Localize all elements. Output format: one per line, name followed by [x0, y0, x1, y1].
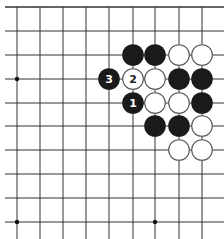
white-stone-icon [192, 45, 213, 66]
grid-lines [5, 7, 224, 239]
white-stone [169, 140, 190, 161]
black-stone [168, 115, 190, 137]
white-stone-icon [145, 93, 166, 114]
white-stone [192, 116, 213, 137]
move-number-label: 2 [129, 73, 137, 86]
black-stone [144, 44, 166, 66]
white-stone-icon [169, 45, 190, 66]
white-stone-icon [192, 140, 213, 161]
white-stone [192, 140, 213, 161]
move-number-label: 3 [105, 73, 113, 86]
white-stone-icon [192, 116, 213, 137]
black-stone-icon [191, 68, 213, 90]
black-stone-move-3: 3 [98, 68, 120, 90]
black-stone-icon [144, 115, 166, 137]
black-stone-icon [168, 115, 190, 137]
white-stone-icon [169, 140, 190, 161]
go-board-diagram: 321 [0, 0, 224, 239]
black-stone [191, 92, 213, 114]
white-stone [169, 45, 190, 66]
white-stone [169, 93, 190, 114]
black-stone-icon [144, 44, 166, 66]
star-point-icon [153, 220, 157, 224]
black-stone [191, 68, 213, 90]
white-stone [145, 69, 166, 90]
black-stone-icon [122, 44, 144, 66]
black-stone-icon [191, 92, 213, 114]
white-stone-move-2: 2 [123, 69, 144, 90]
black-stone [168, 68, 190, 90]
black-stone-icon [168, 68, 190, 90]
white-stone [192, 45, 213, 66]
move-number-label: 1 [129, 97, 137, 110]
white-stone-icon [145, 69, 166, 90]
white-stone [145, 93, 166, 114]
white-stone-icon [169, 93, 190, 114]
black-stone [144, 115, 166, 137]
star-point-icon [15, 77, 19, 81]
black-stone-move-1: 1 [122, 92, 144, 114]
star-point-icon [15, 220, 19, 224]
black-stone [122, 44, 144, 66]
